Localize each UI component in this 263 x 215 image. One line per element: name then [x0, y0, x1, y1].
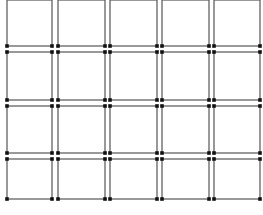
junction-node	[207, 98, 211, 102]
grid-diagram	[0, 0, 263, 215]
junction-node	[160, 44, 164, 48]
junction-node	[207, 157, 211, 161]
grid-cell-r4-c3	[110, 159, 157, 199]
junction-node	[212, 50, 216, 54]
junction-node	[258, 98, 262, 102]
junction-node	[212, 151, 216, 155]
grid-cell-r3-c5	[214, 106, 260, 153]
grid-cell-r4-c1	[7, 159, 52, 199]
junction-node	[258, 44, 262, 48]
junction-node	[103, 44, 107, 48]
junction-node	[103, 157, 107, 161]
grid-cell-r4-c2	[58, 159, 105, 199]
junction-node	[207, 197, 211, 201]
junction-node	[258, 151, 262, 155]
junction-node	[56, 197, 60, 201]
grid-nodes	[5, 44, 262, 201]
junction-node	[56, 104, 60, 108]
junction-node	[207, 151, 211, 155]
junction-node	[258, 104, 262, 108]
junction-node	[50, 157, 54, 161]
junction-node	[103, 50, 107, 54]
grid-cell-r1-c3	[110, 0, 157, 46]
grid-cell-r3-c1	[7, 106, 52, 153]
junction-node	[56, 44, 60, 48]
junction-node	[207, 104, 211, 108]
grid-cell-r2-c3	[110, 52, 157, 100]
grid-cell-r2-c4	[162, 52, 209, 100]
junction-node	[212, 104, 216, 108]
junction-node	[103, 98, 107, 102]
junction-node	[212, 157, 216, 161]
junction-node	[56, 157, 60, 161]
junction-node	[103, 151, 107, 155]
junction-node	[155, 44, 159, 48]
junction-node	[50, 151, 54, 155]
junction-node	[5, 50, 9, 54]
grid-cell-r2-c2	[58, 52, 105, 100]
junction-node	[212, 197, 216, 201]
junction-node	[5, 157, 9, 161]
junction-node	[5, 104, 9, 108]
junction-node	[160, 157, 164, 161]
junction-node	[108, 104, 112, 108]
junction-node	[103, 104, 107, 108]
junction-node	[5, 98, 9, 102]
junction-node	[50, 50, 54, 54]
junction-node	[207, 50, 211, 54]
junction-node	[155, 151, 159, 155]
junction-node	[258, 157, 262, 161]
junction-node	[5, 151, 9, 155]
junction-node	[160, 104, 164, 108]
junction-node	[160, 50, 164, 54]
grid-cell-r2-c1	[7, 52, 52, 100]
junction-node	[103, 197, 107, 201]
junction-node	[5, 197, 9, 201]
junction-node	[155, 98, 159, 102]
junction-node	[50, 197, 54, 201]
junction-node	[212, 98, 216, 102]
junction-node	[108, 44, 112, 48]
junction-node	[108, 197, 112, 201]
junction-node	[108, 50, 112, 54]
junction-node	[50, 98, 54, 102]
junction-node	[160, 197, 164, 201]
grid-cell-r1-c4	[162, 0, 209, 46]
grid-cell-r1-c5	[214, 0, 260, 46]
grid-cell-r4-c4	[162, 159, 209, 199]
junction-node	[155, 157, 159, 161]
junction-node	[160, 151, 164, 155]
junction-node	[108, 157, 112, 161]
junction-node	[258, 50, 262, 54]
grid-cell-r2-c5	[214, 52, 260, 100]
junction-node	[160, 98, 164, 102]
junction-node	[207, 44, 211, 48]
junction-node	[108, 98, 112, 102]
junction-node	[56, 50, 60, 54]
grid-cell-r4-c5	[214, 159, 260, 199]
junction-node	[5, 44, 9, 48]
junction-node	[155, 50, 159, 54]
junction-node	[212, 44, 216, 48]
junction-node	[155, 104, 159, 108]
junction-node	[108, 151, 112, 155]
grid-cells	[7, 0, 260, 199]
grid-cell-r1-c1	[7, 0, 52, 46]
junction-node	[56, 151, 60, 155]
grid-cell-r3-c3	[110, 106, 157, 153]
junction-node	[258, 197, 262, 201]
junction-node	[50, 104, 54, 108]
grid-cell-r3-c4	[162, 106, 209, 153]
junction-node	[56, 98, 60, 102]
junction-node	[50, 44, 54, 48]
junction-node	[155, 197, 159, 201]
grid-cell-r3-c2	[58, 106, 105, 153]
grid-cell-r1-c2	[58, 0, 105, 46]
